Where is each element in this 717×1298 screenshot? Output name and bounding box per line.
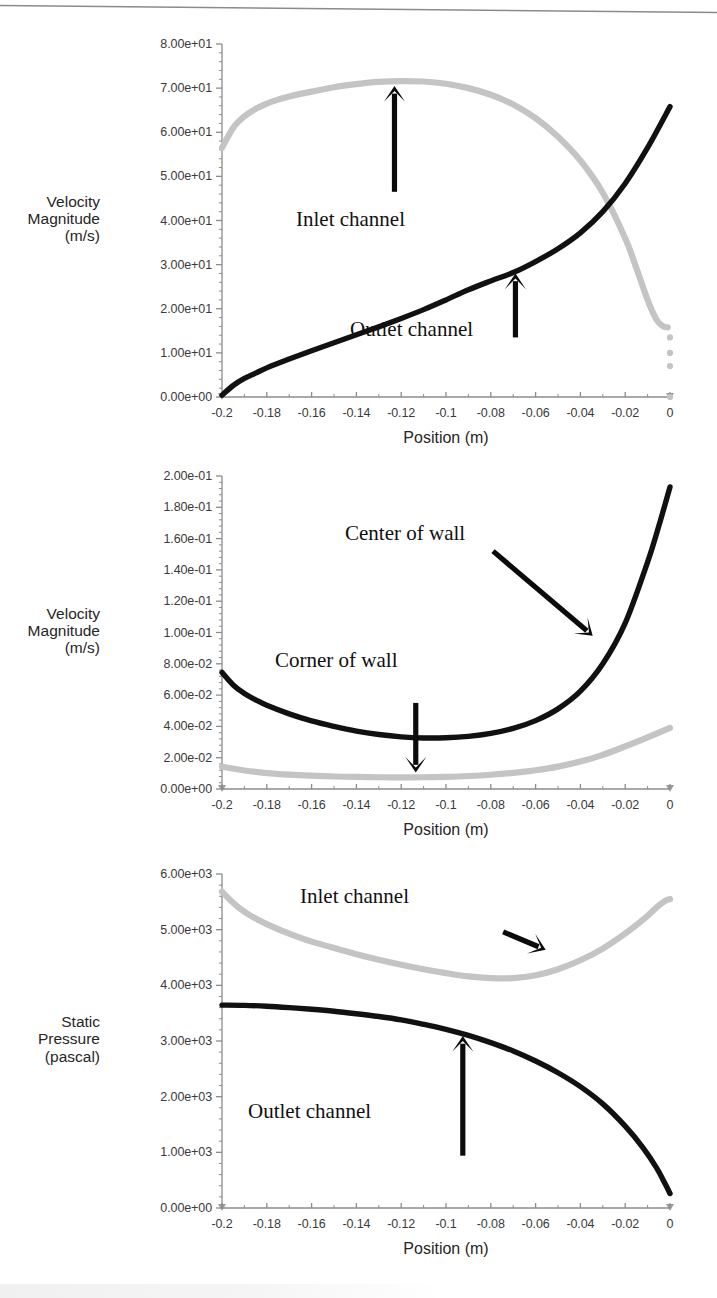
scan-artifact-bottom — [0, 1284, 717, 1298]
y-axis-title-line: Static — [8, 1013, 100, 1030]
y-axis-tick-label: 0.00e+00 — [100, 1201, 212, 1215]
y-axis-tick-label: 1.20e-01 — [100, 594, 212, 608]
y-axis-title-line: (pascal) — [8, 1048, 100, 1065]
y-axis-tick-label: 2.00e-02 — [100, 751, 212, 765]
y-axis-tick-label: 3.00e+03 — [100, 1034, 212, 1048]
y-axis-title-line: Magnitude — [8, 210, 100, 227]
chart-panel-velocity-channels: 0.00e+001.00e+012.00e+013.00e+014.00e+01… — [0, 14, 717, 440]
y-axis-tick-label: 0.00e+00 — [100, 782, 212, 796]
annotation-arrow — [384, 86, 405, 192]
annotation-label: Center of wall — [345, 521, 465, 546]
series-line — [222, 107, 670, 396]
y-axis-tick-label: 8.00e-02 — [100, 657, 212, 671]
x-axis-title: Position (m) — [316, 429, 576, 447]
y-axis-tick-label: 2.00e-01 — [100, 469, 212, 483]
y-axis-title-line: Velocity — [8, 193, 100, 210]
y-axis-tick-label: 3.00e+01 — [100, 258, 212, 272]
series-line — [222, 892, 670, 979]
y-axis-title: VelocityMagnitude(m/s) — [8, 605, 100, 657]
y-axis-tick-label: 0.00e+00 — [100, 390, 212, 404]
x-axis-tick-label: 0 — [643, 1217, 697, 1231]
y-axis-title-line: (m/s) — [8, 639, 100, 656]
chart-panel-static-pressure: 0.00e+001.00e+032.00e+033.00e+034.00e+03… — [0, 856, 717, 1286]
annotation-label: Outlet channel — [350, 317, 473, 342]
annotation-arrow — [493, 551, 593, 636]
annotation-label: Inlet channel — [300, 884, 409, 909]
x-axis-title: Position (m) — [316, 821, 576, 839]
y-axis-title: StaticPressure(pascal) — [8, 1013, 100, 1065]
x-axis-title: Position (m) — [316, 1240, 576, 1258]
y-axis-title-line: Velocity — [8, 605, 100, 622]
y-axis-tick-label: 4.00e+01 — [100, 214, 212, 228]
y-axis-tick-label: 4.00e+03 — [100, 978, 212, 992]
y-axis-tick-label: 1.00e+01 — [100, 346, 212, 360]
series-line — [222, 81, 668, 327]
y-axis-tick-label: 1.00e+03 — [100, 1145, 212, 1159]
annotation-label: Corner of wall — [275, 648, 397, 673]
chart-panel-velocity-wall: 0.00e+002.00e-024.00e-026.00e-028.00e-02… — [0, 446, 717, 852]
y-axis-tick-label: 5.00e+03 — [100, 923, 212, 937]
y-axis-tick-label: 6.00e+01 — [100, 125, 212, 139]
y-axis-tick-label: 1.80e-01 — [100, 500, 212, 514]
y-axis-tick-label: 1.40e-01 — [100, 563, 212, 577]
series-point — [667, 334, 673, 340]
y-axis-tick-label: 1.00e-01 — [100, 626, 212, 640]
series-point — [667, 394, 673, 400]
y-axis-tick-label: 4.00e-02 — [100, 719, 212, 733]
y-axis-tick-label: 5.00e+01 — [100, 169, 212, 183]
annotation-arrow — [503, 932, 546, 954]
y-axis-title: VelocityMagnitude(m/s) — [8, 193, 100, 245]
y-axis-tick-label: 8.00e+01 — [100, 37, 212, 51]
y-axis-tick-label: 2.00e+01 — [100, 302, 212, 316]
x-axis-tick-label: 0 — [643, 406, 697, 420]
series-point — [667, 350, 673, 356]
figure-page: { "figure": { "axis_color": "#8c8c8c", "… — [0, 0, 717, 1298]
y-axis-tick-label: 6.00e-02 — [100, 688, 212, 702]
x-axis-tick-label: 0 — [643, 798, 697, 812]
y-axis-tick-label: 6.00e+03 — [100, 867, 212, 881]
annotation-label: Inlet channel — [296, 207, 405, 232]
y-axis-tick-label: 1.60e-01 — [100, 532, 212, 546]
annotation-arrow — [452, 1036, 473, 1156]
y-axis-tick-label: 7.00e+01 — [100, 81, 212, 95]
y-axis-title-line: Magnitude — [8, 622, 100, 639]
y-axis-title-line: Pressure — [8, 1030, 100, 1047]
annotation-label: Outlet channel — [248, 1099, 371, 1124]
y-axis-title-line: (m/s) — [8, 227, 100, 244]
series-point — [667, 363, 673, 369]
y-axis-tick-label: 2.00e+03 — [100, 1090, 212, 1104]
annotation-arrow — [505, 273, 526, 337]
